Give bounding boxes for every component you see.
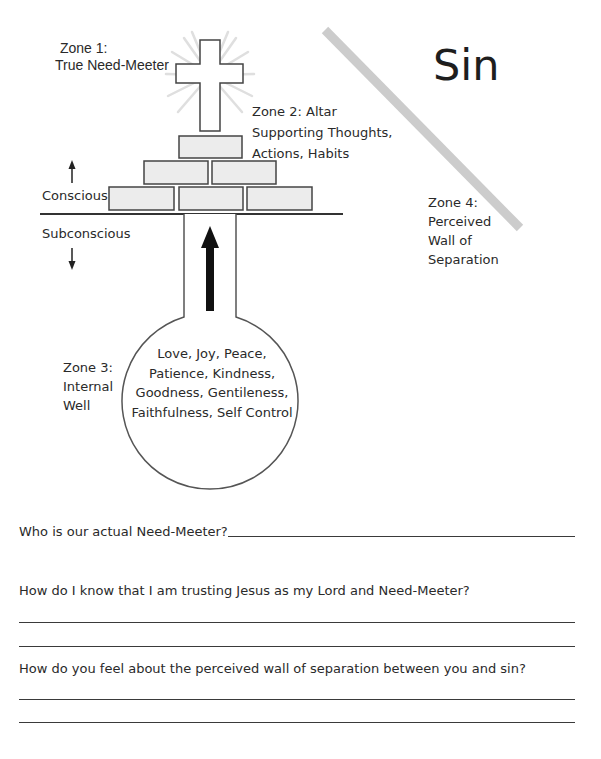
- zone1-label: Zone 1: True Need-Meeter: [55, 40, 169, 74]
- answer-line-3b[interactable]: [19, 722, 575, 723]
- arrow-up-icon: [69, 160, 76, 183]
- fruit-line: Love, Joy, Peace,: [130, 344, 294, 364]
- fruit-line: Goodness, Gentileness,: [130, 383, 294, 403]
- sin-label: Sin: [433, 40, 500, 90]
- zone3-line: Internal: [63, 377, 113, 396]
- zone3-label: Zone 3: Internal Well: [63, 358, 113, 415]
- zone3-line: Well: [63, 396, 113, 415]
- brick: [179, 187, 243, 210]
- zone2-line: Supporting Thoughts,: [252, 122, 393, 143]
- zone1-subtitle: True Need-Meeter: [55, 57, 169, 74]
- zone2-line: Actions, Habits: [252, 143, 393, 164]
- zone4-line: Perceived: [428, 212, 499, 231]
- zone4-line: Separation: [428, 250, 499, 269]
- zone2-line: Zone 2: Altar: [252, 101, 393, 122]
- question-1: Who is our actual Need-Meeter?: [19, 524, 228, 539]
- well-contents: Love, Joy, Peace, Patience, Kindness, Go…: [130, 344, 294, 422]
- faith-diagram: [0, 0, 601, 500]
- arrow-down-icon: [69, 248, 76, 270]
- answer-line-2a[interactable]: [19, 622, 575, 623]
- zone4-line: Zone 4:: [428, 193, 499, 212]
- fruit-line: Patience, Kindness,: [130, 364, 294, 384]
- brick: [144, 161, 208, 184]
- zone4-line: Wall of: [428, 231, 499, 250]
- answer-line-1[interactable]: [228, 536, 575, 537]
- brick: [212, 161, 276, 184]
- zone4-label: Zone 4: Perceived Wall of Separation: [428, 193, 499, 269]
- subconscious-label: Subconscious: [42, 224, 131, 243]
- fruit-line: Faithfulness, Self Control: [130, 403, 294, 423]
- question-3: How do you feel about the perceived wall…: [19, 661, 526, 676]
- zone1-title: Zone 1:: [55, 40, 169, 57]
- conscious-label: Conscious: [42, 186, 108, 205]
- answer-line-3a[interactable]: [19, 699, 575, 700]
- brick: [179, 136, 242, 158]
- zone2-label: Zone 2: Altar Supporting Thoughts, Actio…: [252, 101, 393, 164]
- brick: [109, 187, 174, 210]
- brick: [247, 187, 312, 210]
- answer-line-2b[interactable]: [19, 646, 575, 647]
- question-2: How do I know that I am trusting Jesus a…: [19, 583, 470, 598]
- zone3-line: Zone 3:: [63, 358, 113, 377]
